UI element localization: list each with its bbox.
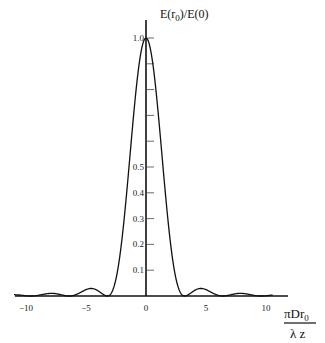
x-tick-label: 0 — [144, 303, 149, 313]
x-tick-label: 5 — [204, 303, 209, 313]
y-tick-label: 0.4 — [133, 188, 145, 198]
y-tick-label: 0.3 — [133, 214, 145, 224]
x-axis-label: πDr0 λ z — [284, 306, 316, 341]
y-tick-label: 0.2 — [133, 239, 144, 249]
y-tick-label: 0.5 — [133, 162, 145, 172]
chart: 0.10.20.30.40.51.0 −10−50510 E(r0)/E(0) … — [0, 0, 325, 343]
x-ticks: −10−50510 — [19, 303, 271, 313]
svg-text:πDr0: πDr0 — [284, 306, 309, 323]
y-axis-label: E(r0)/E(0) — [160, 7, 208, 23]
y-ticks: 0.10.20.30.40.51.0 — [133, 33, 154, 275]
x-tick-label: 10 — [262, 303, 272, 313]
y-tick-label: 1.0 — [133, 33, 145, 43]
y-tick-label: 0.1 — [133, 265, 144, 275]
svg-text:λ z: λ z — [290, 326, 306, 341]
x-tick-label: −5 — [81, 303, 91, 313]
axes — [15, 20, 288, 296]
x-tick-label: −10 — [19, 303, 34, 313]
